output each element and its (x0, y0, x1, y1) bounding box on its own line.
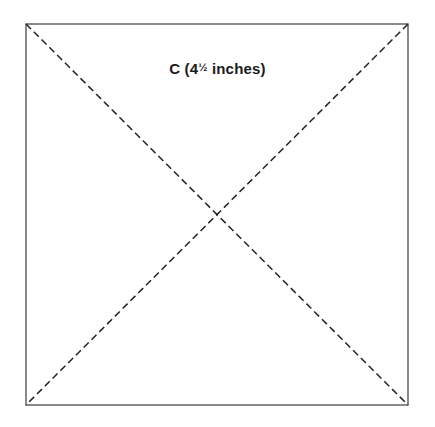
square-label: C (4½ inches) (0, 57, 435, 79)
square-label-prefix: C (4 (169, 60, 198, 77)
square-label-suffix: inches) (208, 60, 266, 77)
square-label-fraction: ½ (198, 61, 207, 73)
figure-canvas: C (4½ inches) (0, 0, 435, 427)
